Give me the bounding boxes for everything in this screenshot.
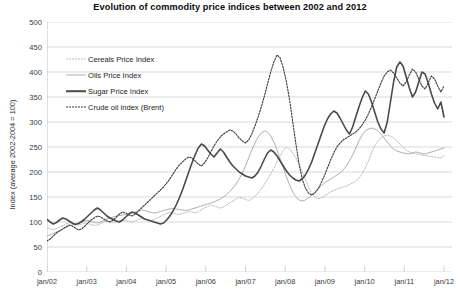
x-axis-tick-label: jan/09 xyxy=(315,277,335,286)
x-axis-tick-label: jan/03 xyxy=(77,277,97,286)
x-axis-tick-label: jan/04 xyxy=(116,277,136,286)
legend-swatch-3 xyxy=(66,106,86,107)
y-axis-tick-label: 0 xyxy=(6,268,42,277)
legend-label-1: Oils Price Index xyxy=(88,71,141,80)
legend-label-2: Sugar Price Index xyxy=(88,87,148,96)
y-axis-tick-labels: 050100150200250300350400450500 xyxy=(4,0,42,303)
series-line-1 xyxy=(47,128,444,236)
x-axis-tick-label: jan/06 xyxy=(196,277,216,286)
chart-title: Evolution of commodity price indices bet… xyxy=(0,2,460,12)
y-axis-tick-label: 350 xyxy=(6,93,42,102)
x-axis-tick-label: jan/08 xyxy=(275,277,295,286)
series-line-3 xyxy=(47,55,444,241)
legend-swatch-2 xyxy=(66,90,86,92)
x-axis-tick-label: jan/10 xyxy=(355,277,375,286)
y-axis-tick-label: 250 xyxy=(6,143,42,152)
y-axis-tick-label: 300 xyxy=(6,118,42,127)
y-axis-tick-label: 150 xyxy=(6,193,42,202)
x-axis-tick-label: jan/05 xyxy=(156,277,176,286)
legend-swatch-1 xyxy=(66,75,86,76)
y-axis-tick-label: 450 xyxy=(6,43,42,52)
x-axis-tick-label: jan/07 xyxy=(235,277,255,286)
x-axis-tick-label: jan/11 xyxy=(395,277,415,286)
y-axis-tick-label: 100 xyxy=(6,218,42,227)
y-axis-tick-label: 400 xyxy=(6,68,42,77)
y-axis-tick-label: 50 xyxy=(6,243,42,252)
commodity-price-chart: Evolution of commodity price indices bet… xyxy=(0,0,460,303)
x-axis-tick-label: jan/02 xyxy=(37,277,57,286)
legend-label-3: Crude oil index (Brent) xyxy=(88,103,164,112)
legend-label-0: Cereals Price Index xyxy=(88,55,154,64)
y-axis-tick-label: 500 xyxy=(6,18,42,27)
y-axis-tick-label: 200 xyxy=(6,168,42,177)
legend-swatch-0 xyxy=(66,59,86,60)
x-axis-tick-label: jan/12 xyxy=(434,277,454,286)
